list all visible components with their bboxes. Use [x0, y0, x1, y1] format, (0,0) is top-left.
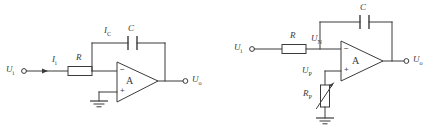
left-input-source-label: Ui [6, 65, 14, 76]
right-resistor-body [282, 45, 306, 54]
right-inverting-sign: − [344, 45, 349, 53]
right-balance-resistor-label: RP [303, 89, 312, 100]
left-output-terminal [183, 79, 188, 84]
right-resistor-label: R [290, 31, 296, 40]
left-feedback-current-label: IC [104, 26, 111, 37]
left-resistor-body [68, 67, 92, 76]
figure-root: Ui Ii R IC C A − + Uo Ui R UN C UP RP A … [0, 0, 427, 131]
left-input-terminal [22, 69, 27, 74]
right-output-label: Uo [413, 55, 423, 66]
right-circuit-group [250, 15, 409, 124]
left-inverting-sign: − [120, 66, 125, 74]
right-inverting-node-label: UN [311, 34, 322, 45]
left-amplifier-label: A [126, 76, 133, 86]
right-noninverting-sign: + [344, 66, 349, 74]
left-input-current-arrow-icon [42, 68, 48, 73]
right-output-terminal [404, 59, 409, 64]
right-amplifier-label: A [352, 56, 359, 66]
right-input-terminal [250, 47, 255, 52]
right-capacitor-label: C [360, 3, 366, 12]
circuit-schematic-canvas [0, 0, 427, 131]
left-noninverting-sign: + [120, 87, 125, 95]
right-noninverting-node-label: UP [302, 66, 312, 77]
left-capacitor-label: C [128, 24, 134, 33]
left-input-current-label: Ii [52, 55, 57, 66]
left-output-label: Uo [192, 75, 202, 86]
left-circuit-group [22, 36, 188, 107]
left-resistor-label: R [76, 53, 82, 62]
right-input-source-label: Ui [234, 43, 242, 54]
